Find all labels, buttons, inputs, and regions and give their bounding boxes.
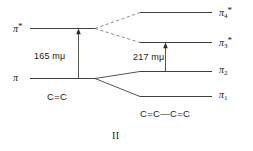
level-label-pi3-star: π3* (219, 36, 232, 50)
level-label-pi2-subscript: 2 (224, 69, 228, 77)
transition-label-left: 165 mμ (34, 52, 65, 61)
transition-label-right: 217 mμ (133, 53, 164, 62)
correlation-line-pi-to-pi1 (95, 79, 140, 97)
level-label-pi1-subscript: 1 (224, 94, 228, 102)
figure-caption: II (112, 131, 120, 141)
formula-butadiene: C=C—C=C (140, 109, 190, 119)
level-label-pi3-star-superscript: * (228, 35, 233, 45)
level-label-pi1: π1 (219, 90, 228, 102)
level-label-pi2: π2 (219, 65, 228, 77)
transition-arrow-head-left (76, 29, 81, 35)
level-label-pi4-star-superscript: * (228, 5, 233, 15)
level-label-pi-star: π* (13, 22, 23, 34)
figure-container: π* π π4* π3* π2 π1 165 mμ 217 mμ C=C C=C… (0, 0, 253, 151)
level-label-pi-star-superscript: * (18, 21, 23, 31)
correlation-line-pi-star-to-pi3-star (95, 29, 140, 43)
mo-diagram (0, 0, 253, 151)
correlation-line-pi-star-to-pi4-star (95, 13, 140, 29)
transition-arrow-head-right (163, 43, 168, 49)
level-label-pi4-star: π4* (219, 6, 232, 20)
formula-ethylene: C=C (47, 92, 67, 102)
level-label-pi-symbol: π (13, 72, 18, 83)
correlation-line-pi-to-pi2 (95, 72, 140, 79)
level-label-pi: π (13, 73, 18, 83)
